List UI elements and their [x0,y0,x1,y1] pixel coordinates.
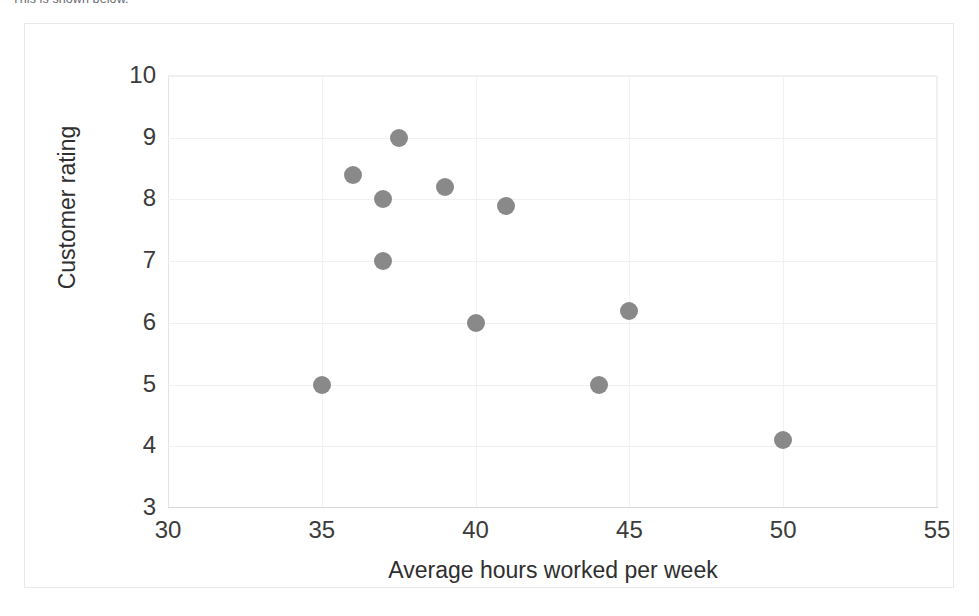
x-axis-tick-label: 55 [897,516,977,544]
chart-frame: Customer rating 345678910 303540455055 A… [24,23,954,588]
scatter-point [374,252,392,270]
scatter-point [436,178,454,196]
y-axis-tick-label: 9 [110,123,156,151]
x-axis-tick-label: 35 [282,516,362,544]
y-axis-tick-label: 5 [110,370,156,398]
x-axis-title: Average hours worked per week [168,557,938,584]
gridline-horizontal [168,385,936,386]
gridline-horizontal [168,323,936,324]
scatter-point [374,190,392,208]
scatter-point [344,166,362,184]
scatter-point [497,197,515,215]
gridline-vertical [937,76,938,507]
gridline-horizontal [168,446,936,447]
x-axis-line [168,507,938,508]
x-axis-tick-label: 50 [743,516,823,544]
y-axis-tick-labels: 345678910 [100,75,156,507]
x-axis-tick-label: 40 [436,516,516,544]
y-axis-tick-label: 7 [110,246,156,274]
gridline-horizontal [168,199,936,200]
scatter-point [590,376,608,394]
scatter-point [467,314,485,332]
y-axis-tick-label: 8 [110,184,156,212]
y-axis-tick-label: 10 [110,61,156,89]
x-axis-tick-label: 45 [589,516,669,544]
gridline-vertical [476,76,477,507]
gridline-horizontal [168,261,936,262]
x-axis-tick-labels: 303540455055 [168,516,938,556]
scatter-point [620,302,638,320]
x-axis-tick-label: 30 [128,516,208,544]
y-axis-tick-label: 4 [110,431,156,459]
scatter-point [313,376,331,394]
scatter-point [390,129,408,147]
gridline-vertical [629,76,630,507]
y-axis-title: Customer rating [54,48,81,368]
gridline-horizontal [168,138,936,139]
top-caption: This is shown below. [12,0,412,6]
gridline-vertical [322,76,323,507]
y-axis-tick-label: 6 [110,308,156,336]
plot-area [168,75,937,507]
gridline-horizontal [168,76,936,77]
